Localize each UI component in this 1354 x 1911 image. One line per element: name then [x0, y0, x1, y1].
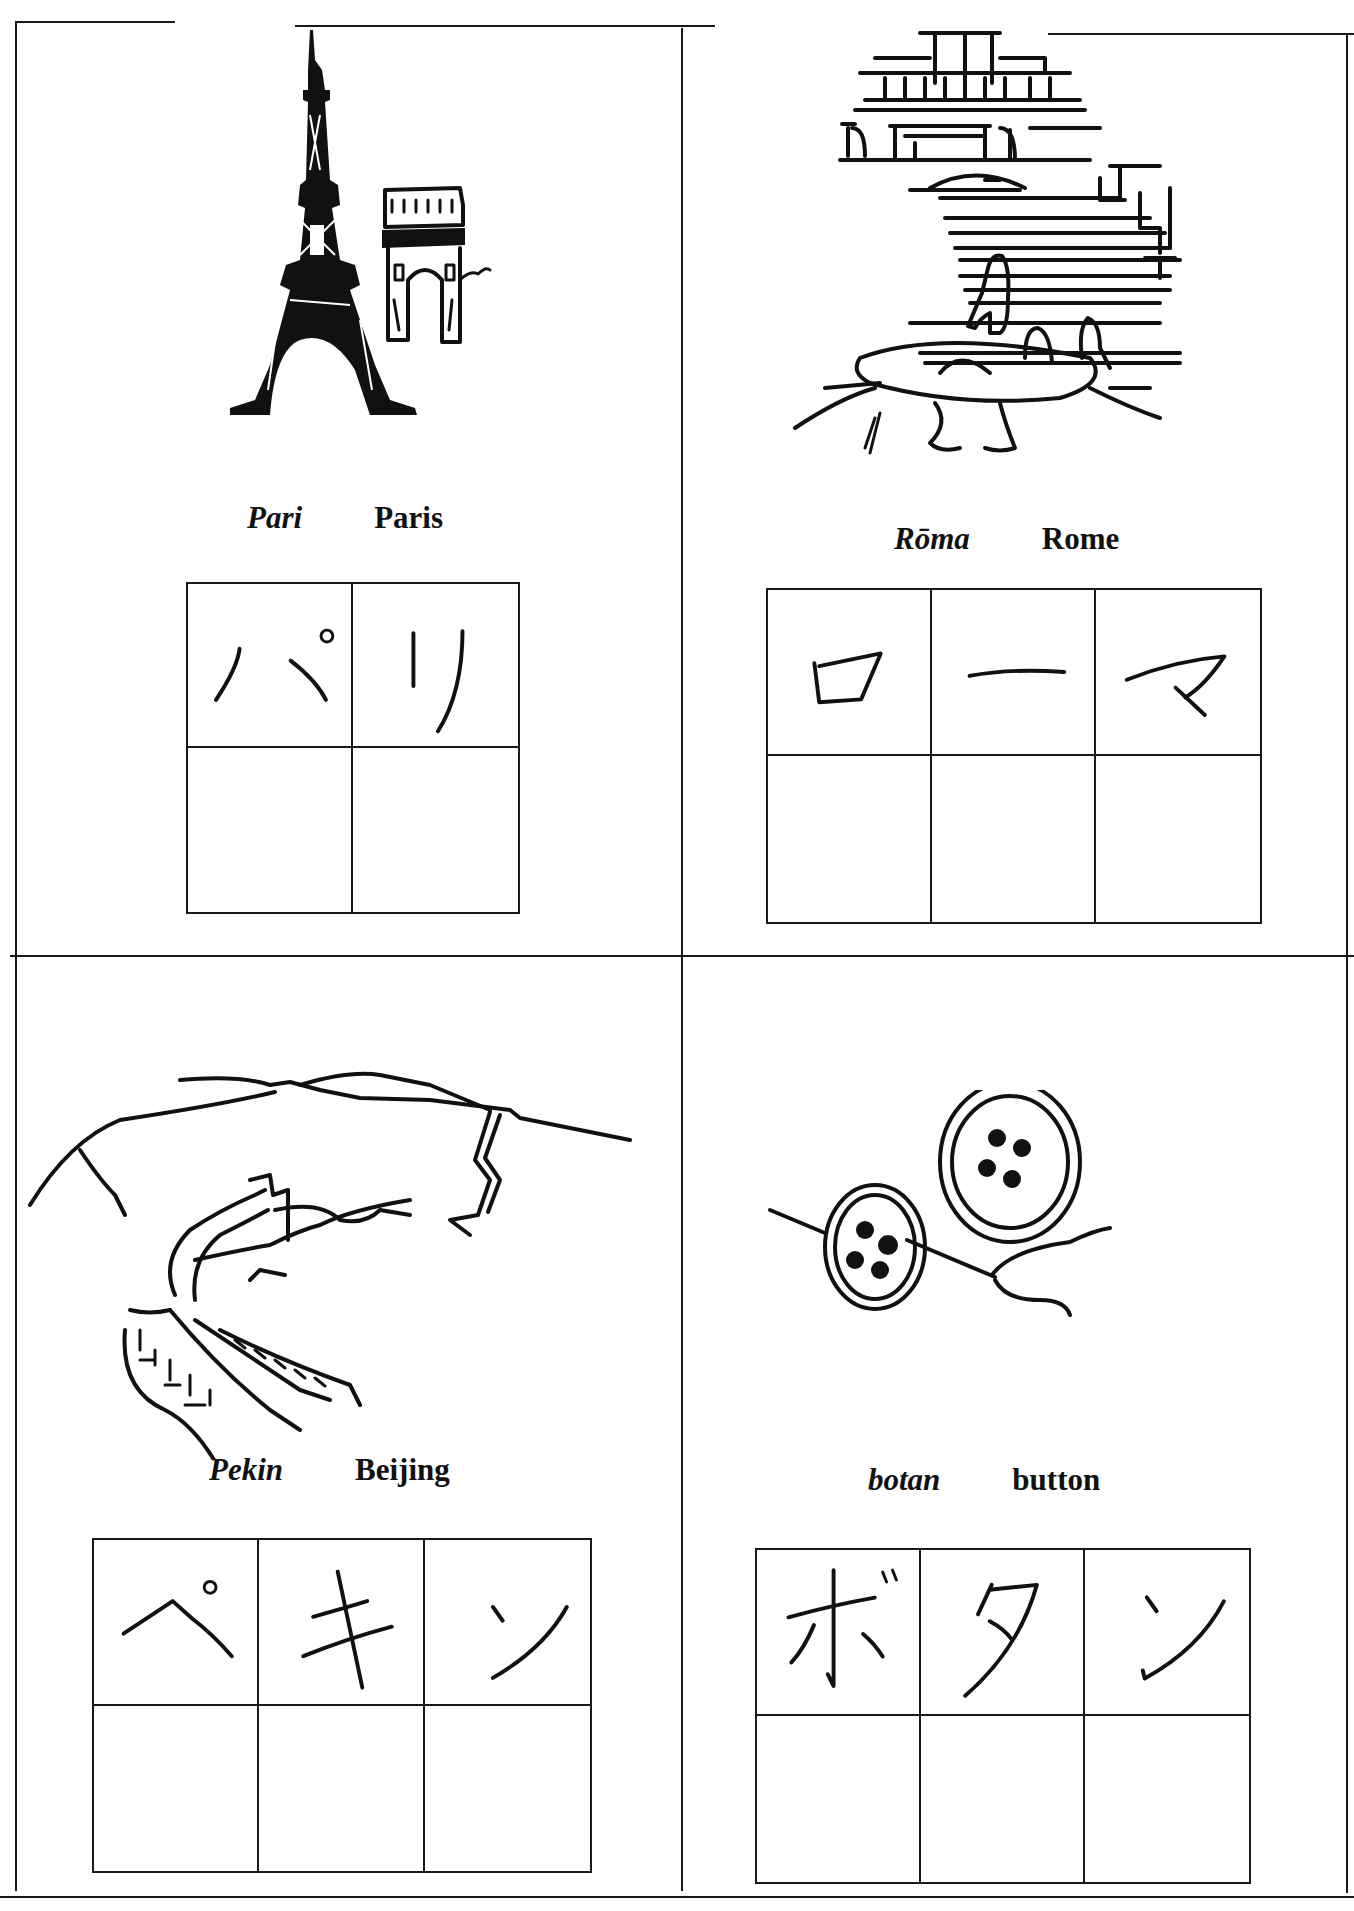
- practice-cell[interactable]: [1085, 1716, 1249, 1882]
- practice-cell[interactable]: [188, 748, 353, 912]
- label-row-paris: Pari Paris: [247, 500, 443, 536]
- english-word: button: [1012, 1462, 1100, 1498]
- practice-cell[interactable]: [757, 1716, 921, 1882]
- buttons-illustration: [740, 1090, 1220, 1380]
- kana-cell-ki: キ: [259, 1540, 424, 1706]
- kana-cell-long-vowel: ー: [932, 590, 1096, 756]
- kana-cell-n: ン: [425, 1540, 590, 1706]
- top-border-left: [15, 21, 175, 23]
- label-row-beijing: Pekin Beijing: [209, 1452, 450, 1488]
- practice-cell[interactable]: [932, 756, 1096, 922]
- label-row-button: botan button: [868, 1462, 1100, 1498]
- romaji-word: botan: [868, 1462, 940, 1498]
- romaji-word: Pekin: [209, 1452, 283, 1488]
- spanish-steps-illustration: [760, 28, 1260, 488]
- practice-cell[interactable]: [921, 1716, 1085, 1882]
- practice-cell[interactable]: [259, 1706, 424, 1872]
- kana-cell-n: ン: [1085, 1550, 1249, 1716]
- romaji-word: Pari: [247, 500, 302, 536]
- practice-grid-paris: パ リ: [186, 582, 520, 914]
- practice-grid-button: ボ タ ン: [755, 1548, 1251, 1884]
- practice-cell[interactable]: [353, 748, 518, 912]
- practice-cell[interactable]: [94, 1706, 259, 1872]
- kana-cell-ri: リ: [353, 584, 518, 748]
- eiffel-tower-illustration: [160, 20, 560, 440]
- english-word: Beijing: [355, 1452, 450, 1488]
- practice-grid-beijing: ペ キ ン: [92, 1538, 592, 1873]
- great-wall-illustration: [20, 1030, 660, 1460]
- right-border: [1346, 33, 1348, 1893]
- kana-cell-ro: ロ: [768, 590, 932, 756]
- bottom-border: [0, 1896, 1354, 1898]
- practice-cell[interactable]: [425, 1706, 590, 1872]
- middle-divider: [10, 955, 1354, 957]
- kana-cell-bo: ボ: [757, 1550, 921, 1716]
- english-word: Paris: [374, 500, 443, 536]
- center-divider: [681, 28, 683, 1891]
- practice-cell[interactable]: [768, 756, 932, 922]
- kana-cell-pa: パ: [188, 584, 353, 748]
- kana-cell-ma: マ: [1096, 590, 1260, 756]
- label-row-rome: Rōma Rome: [894, 521, 1119, 557]
- romaji-word: Rōma: [894, 521, 970, 557]
- practice-grid-rome: ロ ー マ: [766, 588, 1262, 924]
- practice-cell[interactable]: [1096, 756, 1260, 922]
- english-word: Rome: [1042, 521, 1119, 557]
- kana-cell-ta: タ: [921, 1550, 1085, 1716]
- kana-cell-pe: ペ: [94, 1540, 259, 1706]
